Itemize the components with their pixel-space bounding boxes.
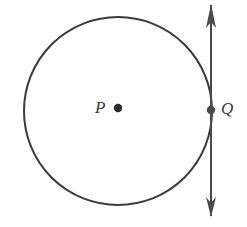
geometry-figure: P Q	[0, 0, 247, 227]
diagram-canvas	[0, 0, 247, 227]
point-label-q: Q	[221, 100, 233, 117]
point-label-p: P	[95, 99, 105, 116]
tangent-point-dot	[207, 106, 215, 114]
center-point-dot	[114, 104, 122, 112]
